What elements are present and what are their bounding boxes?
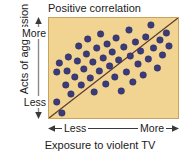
x-axis-tick-less: Less [62,122,88,135]
data-point [78,82,84,88]
data-point [64,68,70,74]
x-axis-tick-more: More [138,122,166,135]
data-point [115,57,121,63]
data-point [154,65,160,71]
data-point [127,53,133,59]
data-point [137,48,143,54]
y-axis-label: Acts of aggression [18,0,30,101]
data-point [84,36,90,42]
data-point [87,75,93,81]
data-point [72,74,78,80]
data-point [63,82,69,88]
data-point [132,39,138,45]
data-point [143,34,149,40]
data-point [121,44,127,50]
data-point [109,49,115,55]
data-point [118,88,124,94]
y-axis: Acts of aggression More Less [0,17,48,119]
data-point [81,66,87,72]
data-point [157,37,163,43]
data-point [150,45,156,51]
data-point [59,110,65,116]
data-point [68,91,74,97]
x-axis: Less More [48,121,179,137]
data-point [97,31,103,37]
data-point [112,74,118,80]
data-point [163,30,169,36]
x-axis-label: Exposure to violent TV [20,138,180,152]
data-point [126,27,132,33]
data-point [166,43,172,49]
data-point [145,56,151,62]
data-point [104,41,110,47]
plot-area [48,17,179,119]
data-point [123,69,129,75]
data-point [159,52,165,58]
data-point [93,45,99,51]
data-point [75,43,81,49]
data-point [148,22,154,28]
data-point [106,63,112,69]
data-point [90,59,96,65]
data-point [113,35,119,41]
data-point [83,51,89,57]
plot-svg [49,18,178,118]
data-point [96,68,102,74]
data-point [74,58,80,64]
y-axis-tick-less: Less [2,96,46,108]
data-point [53,69,59,75]
data-point [140,72,146,78]
chart-title: Positive correlation [48,1,190,15]
data-point [56,60,62,66]
data-point [100,55,106,61]
data-point [130,79,136,85]
scatter-plot-figure: Positive correlation Acts of aggression … [0,0,190,156]
data-point [103,81,109,87]
data-point [91,89,97,95]
data-point [135,61,141,67]
y-axis-tick-more: More [2,27,46,39]
data-point [53,99,59,105]
data-point [65,54,71,60]
